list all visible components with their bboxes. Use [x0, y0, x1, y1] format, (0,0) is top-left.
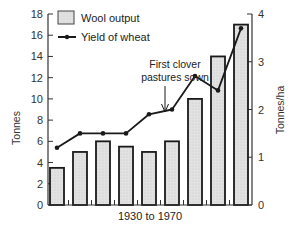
- left-tick-label: 16: [31, 29, 43, 41]
- legend-wheat-marker-icon: [65, 35, 69, 39]
- x-axis-title: 1930 to 1970: [118, 210, 182, 222]
- annotation-line2: pastures sown: [141, 71, 209, 83]
- wheat-yield-marker: [124, 131, 129, 136]
- left-tick-label: 10: [31, 93, 43, 105]
- left-tick-label: 0: [37, 199, 43, 211]
- left-tick-label: 8: [37, 114, 43, 126]
- left-tick-label: 12: [31, 72, 43, 84]
- wool-bar: [165, 141, 179, 205]
- right-axis: 01234: [247, 8, 264, 211]
- right-tick-label: 0: [258, 199, 264, 211]
- wool-bar: [119, 147, 133, 205]
- chart: 024681012141618 01234 Wool output Yield …: [0, 0, 292, 228]
- legend-wool-swatch: [58, 11, 74, 24]
- wheat-yield-marker: [55, 145, 60, 150]
- left-tick-label: 2: [37, 178, 43, 190]
- wool-bar: [142, 152, 156, 205]
- left-tick-label: 18: [31, 8, 43, 20]
- legend-wool-label: Wool output: [81, 12, 140, 24]
- left-tick-label: 14: [31, 50, 43, 62]
- legend: Wool output Yield of wheat: [58, 11, 150, 43]
- wheat-yield-marker: [101, 131, 106, 136]
- annotation-line1: First clover: [149, 58, 201, 70]
- wool-bar: [50, 168, 64, 205]
- left-tick-label: 4: [37, 157, 43, 169]
- right-tick-label: 3: [258, 56, 264, 68]
- right-axis-title: Tonnes/ha: [274, 86, 286, 135]
- wool-bar: [96, 141, 110, 205]
- wheat-yield-marker: [78, 131, 83, 136]
- right-tick-label: 4: [258, 8, 264, 20]
- wool-bar: [188, 99, 202, 205]
- right-tick-label: 2: [258, 104, 264, 116]
- wheat-yield-marker: [170, 107, 175, 112]
- right-tick-label: 1: [258, 151, 264, 163]
- wheat-yield-marker: [239, 26, 244, 31]
- wheat-yield-marker: [216, 88, 221, 93]
- left-tick-label: 6: [37, 135, 43, 147]
- left-axis-title: Tonnes: [10, 111, 22, 145]
- wheat-yield-marker: [147, 112, 152, 117]
- wool-bar: [73, 152, 87, 205]
- legend-wheat-label: Yield of wheat: [81, 31, 150, 43]
- wool-bar: [234, 25, 248, 205]
